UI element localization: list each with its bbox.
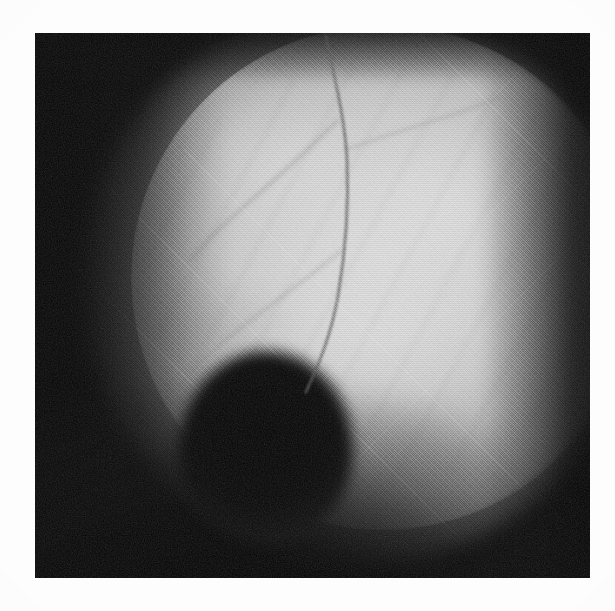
dark-shadow-blob xyxy=(178,351,353,541)
photographic-plate xyxy=(35,33,590,578)
page-canvas xyxy=(0,0,615,611)
